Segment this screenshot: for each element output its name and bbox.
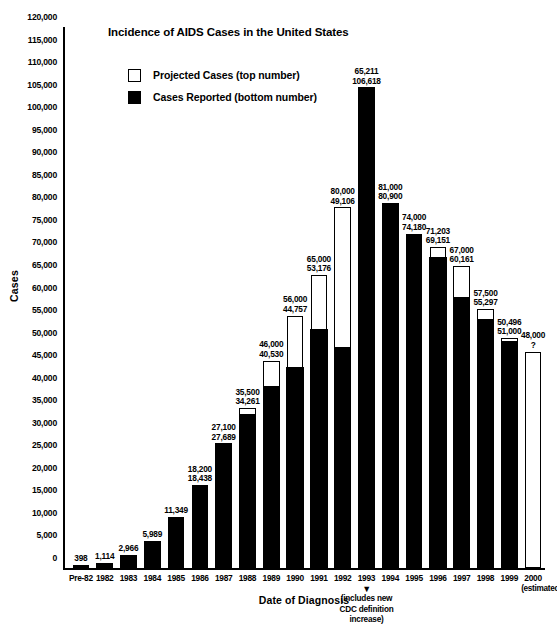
x-tick-category: 1985 [167,573,184,583]
bar-column: 11,349 [168,517,185,568]
y-tick-label: 115,000 [28,35,57,45]
x-tick-category: 1994 [382,573,399,583]
bar-value-label: 2,966 [119,544,139,554]
bar-top-value: 56,000 [283,294,307,304]
bar-top-value: 65,211 [355,66,379,76]
x-tick-label: 2000(estimated) [521,573,545,593]
bar-value-label: 65,00053,176 [307,255,331,274]
x-tick-category: 1982 [96,573,113,583]
bar-value-label: 50,49651,000 [497,318,521,337]
bar-top-value: 2,966 [119,543,139,553]
bar-value-label: 71,20369,151 [426,227,450,246]
x-tick-category: 1983 [120,573,137,583]
x-tick-sublabel: (estimated) [521,584,545,593]
bar-reported-segment [286,367,303,569]
x-tick-category: 1993 [358,573,375,583]
bar-top-value: 5,989 [142,529,162,539]
y-tick-label: 25,000 [32,440,57,450]
y-tick-label: 45,000 [32,350,57,360]
bar-value-label: 80,00049,106 [331,187,355,206]
bar-value-label: 57,50055,297 [473,289,497,308]
bar-value-label: 11,349 [164,506,188,516]
x-tick-category: 1992 [334,573,351,583]
bar-top-value: 18,200 [188,464,212,474]
bar-top-value: 57,500 [473,288,497,298]
bar-reported-segment [334,347,351,568]
bar-top-value: 46,000 [259,339,283,349]
bar-reported-segment [263,386,280,569]
bar-pre-82: 398 [73,565,90,568]
bar-1993: 65,211106,618 [358,87,375,568]
x-axis-line [63,568,545,570]
bar-1988: 35,50034,261 [239,408,256,568]
bar-bottom-value: 80,900 [378,191,402,201]
bar-column: 67,00060,161 [453,266,470,568]
x-axis-title: Date of Diagnosis [63,594,545,606]
bar-column: 80,00049,106 [334,207,351,568]
bar-reported-segment [310,329,327,569]
bar-top-value: 35,500 [235,387,259,397]
bar-column: 50,49651,000 [501,338,518,568]
x-tick-label: 1987 [212,573,236,583]
bar-1987: 27,10027,689 [215,443,232,568]
x-tick-label: 1991 [307,573,331,583]
bar-bottom-value: 69,151 [426,235,450,245]
x-tick-category: 2000 [524,573,541,583]
x-tick-category: 1996 [429,573,446,583]
bar-column: 48,000? [525,352,542,568]
bar-column: 46,00040,530 [263,361,280,568]
bar-1990: 56,00044,757 [287,316,304,568]
y-tick-label: 70,000 [32,237,57,247]
bar-1994: 81,00080,900 [382,203,399,568]
annotation-line-3: increase) [349,615,383,624]
bar-column: 74,00074,180 [406,234,423,568]
bar-top-value: 81,000 [378,182,402,192]
y-tick-label: 50,000 [32,328,57,338]
x-tick-category: Pre-82 [69,573,93,583]
bar-reported-segment [501,341,518,569]
y-tick-label: 110,000 [28,57,57,67]
y-tick-label: 55,000 [32,305,57,315]
y-tick-label: 85,000 [32,170,57,180]
bar-1992: 80,00049,106 [334,207,351,568]
y-tick-label: 65,000 [32,260,57,270]
y-tick-label: 5,000 [36,530,57,540]
bar-column: 35,50034,261 [239,408,256,568]
x-tick-label: 1984 [140,573,164,583]
bar-top-value: 65,000 [307,254,331,264]
chart-page: Incidence of AIDS Cases in the United St… [0,0,557,638]
y-tick-label: 105,000 [27,80,57,90]
bar-value-label: 46,00040,530 [259,340,283,359]
bar-column: 5,989 [144,541,161,568]
bar-reported-segment [453,297,470,568]
y-tick-label: 90,000 [32,147,57,157]
bar-reported-segment [239,414,256,568]
x-tick-category: 1995 [405,573,422,583]
y-tick-label: 10,000 [32,508,57,518]
bar-bottom-value: 18,438 [188,473,212,483]
bar-bottom-value: 34,261 [235,396,259,406]
x-tick-category: 1998 [477,573,494,583]
bar-value-label: 74,00074,180 [402,213,426,232]
cdc-definition-annotation: ▼ (includes new CDC definition increase) [312,585,422,626]
bar-bottom-value: 49,106 [331,196,355,206]
x-tick-label: 1988 [236,573,260,583]
bar-bottom-value: 53,176 [307,263,331,273]
bar-column: 81,00080,900 [382,203,399,568]
bar-value-label: 18,20018,438 [188,465,212,484]
bar-bottom-value: 74,180 [402,222,426,232]
x-tick-label: 1985 [164,573,188,583]
y-tick-label: 35,000 [32,395,57,405]
x-tick-category: 1997 [453,573,470,583]
bar-top-value: 67,000 [450,245,474,255]
y-tick-label: 30,000 [32,418,57,428]
bar-bottom-value: 40,530 [259,349,283,359]
bar-1999: 50,49651,000 [501,338,518,568]
y-tick-label: 15,000 [32,485,57,495]
x-tick-category: 1988 [239,573,256,583]
bar-top-value: 71,203 [426,226,450,236]
y-tick-label: 0 [52,553,57,563]
bar-top-value: 80,000 [331,186,355,196]
x-tick-category: 1999 [501,573,518,583]
bar-reported-segment [477,319,494,568]
